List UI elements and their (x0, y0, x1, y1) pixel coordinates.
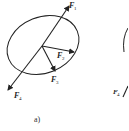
force-diagram: F 1 F 2 F 3 F 4 a) F 4 (0, 0, 128, 131)
svg-text:2: 2 (62, 56, 65, 61)
second-figure-ellipse-fragment (124, 28, 129, 52)
label-f3: F 3 (50, 75, 59, 85)
label-f4: F 4 (13, 91, 22, 101)
label-f1: F 1 (68, 1, 77, 11)
svg-text:1: 1 (74, 6, 77, 11)
rigid-body-ellipse (0, 5, 88, 85)
force-f1-arrow (42, 6, 69, 46)
second-figure-label-f4: F 4 (113, 88, 120, 97)
label-f2: F 2 (56, 51, 65, 61)
second-figure-arrow-fragment (123, 86, 128, 97)
svg-text:3: 3 (56, 80, 59, 85)
svg-text:4: 4 (117, 92, 120, 97)
svg-text:4: 4 (19, 96, 22, 101)
force-f4-arrow (8, 46, 42, 90)
force-f3-arrow (42, 46, 55, 71)
figure-caption: a) (34, 115, 41, 124)
